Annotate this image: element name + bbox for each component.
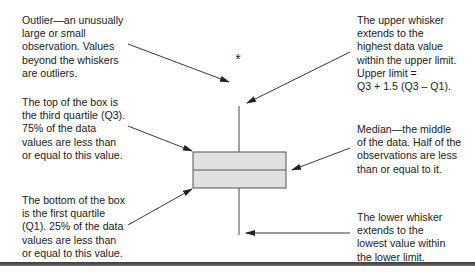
note-line: beyond the whiskers (22, 54, 123, 67)
note-line: lowest value within (357, 237, 445, 250)
note-line: Median—the middle (357, 123, 461, 136)
note-line: Outlier—an unusually (22, 14, 123, 27)
note-line: (Q1). 25% of the data (22, 220, 125, 233)
note-line: 75% of the data (22, 122, 125, 135)
outlier-arrow (128, 44, 229, 82)
note-line: Upper limit = (357, 67, 457, 80)
note-line: than or equal to it. (357, 163, 461, 176)
note-line: extends to the (357, 27, 457, 40)
note-line: the third quartile (Q3). (22, 109, 125, 122)
note-line: The top of the box is (22, 96, 125, 109)
outlier-note: Outlier—an unusually large or small obse… (22, 14, 123, 80)
note-line: The upper whisker (357, 14, 457, 27)
median-arrow (292, 148, 350, 170)
upper-whisker-arrow (247, 52, 350, 103)
note-line: observations are less (357, 149, 461, 162)
note-line: observation. Values (22, 40, 123, 53)
note-line: are outliers. (22, 67, 123, 80)
note-line: Q3 + 1.5 (Q3 – Q1). (357, 80, 457, 93)
lower-whisker-note: The lower whisker extends to the lowest … (357, 211, 445, 264)
q3-note: The top of the box is the third quartile… (22, 96, 125, 162)
note-line: values are less than (22, 234, 125, 247)
upper-whisker-note: The upper whisker extends to the highest… (357, 14, 457, 93)
median-note: Median—the middle of the data. Half of t… (357, 123, 461, 176)
q3-arrow (128, 126, 192, 151)
note-line: of the data. Half of the (357, 136, 461, 149)
note-line: The bottom of the box (22, 194, 125, 207)
q1-arrow (128, 189, 192, 225)
note-line: within the upper limit. (357, 54, 457, 67)
outlier-marker: * (235, 51, 241, 67)
note-line: values are less than (22, 136, 125, 149)
note-line: highest data value (357, 40, 457, 53)
note-line: The lower whisker (357, 211, 445, 224)
note-line: large or small (22, 27, 123, 40)
note-line: extends to the (357, 224, 445, 237)
q1-note: The bottom of the box is the first quart… (22, 194, 125, 260)
bottom-rule (0, 262, 475, 266)
note-line: or equal to this value. (22, 247, 125, 260)
note-line: is the first quartile (22, 207, 125, 220)
note-line: or equal to this value. (22, 149, 125, 162)
